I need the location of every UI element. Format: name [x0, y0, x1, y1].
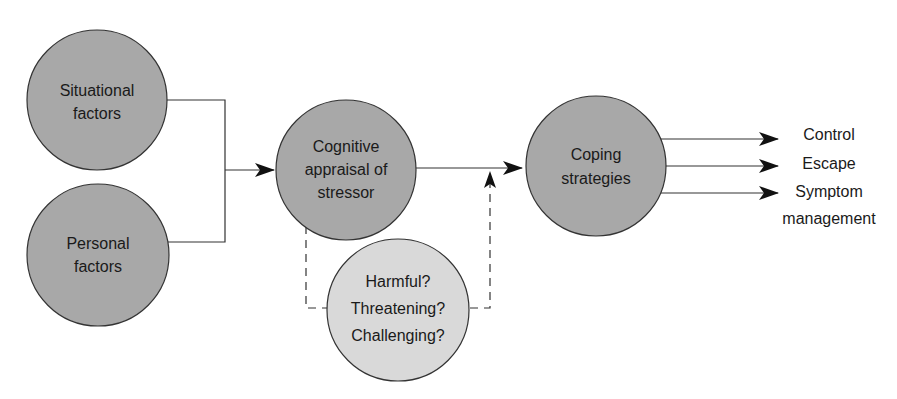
node-appraisal-questions: Harmful? Threatening? Challenging?: [327, 239, 469, 381]
node-personal-line1: Personal: [66, 235, 129, 252]
node-personal-line2: factors: [74, 258, 122, 275]
node-appraisal-line3: stressor: [318, 184, 376, 201]
node-coping-line2: strategies: [561, 170, 630, 187]
node-coping-line1: Coping: [571, 146, 622, 163]
node-questions-line2: Threatening?: [351, 300, 445, 317]
node-appraisal-line1: Cognitive: [313, 138, 380, 155]
node-questions-line1: Harmful?: [366, 273, 431, 290]
output-escape: Escape: [802, 155, 855, 172]
node-situational-line1: Situational: [60, 82, 135, 99]
node-situational-factors: Situational factors: [27, 30, 167, 170]
node-situational-line2: factors: [73, 105, 121, 122]
output-symptom-line2: management: [782, 210, 876, 227]
output-symptom-line1: Symptom: [795, 183, 863, 200]
node-personal-factors: Personal factors: [27, 184, 169, 326]
input-connector: [166, 100, 274, 242]
stress-coping-diagram: Situational factors Personal factors Cog…: [0, 0, 897, 399]
node-cognitive-appraisal: Cognitive appraisal of stressor: [276, 100, 416, 240]
node-appraisal-line2: appraisal of: [305, 161, 388, 178]
output-control: Control: [803, 126, 855, 143]
node-questions-line3: Challenging?: [351, 327, 445, 344]
node-coping-strategies: Coping strategies: [526, 96, 666, 236]
output-arrows: [660, 139, 778, 193]
